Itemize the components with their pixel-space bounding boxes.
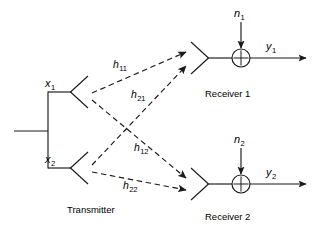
transmitter-caption: Transmitter <box>67 205 115 215</box>
channel-label-h21: h21 <box>131 89 145 100</box>
tx-signal-label-x1: x1 <box>45 78 54 89</box>
receiver-1-caption: Receiver 1 <box>205 89 250 99</box>
rx1-noise-label: n1 <box>234 8 244 19</box>
tx-antenna-1-icon <box>71 76 89 108</box>
rx2-antenna-icon <box>191 168 209 200</box>
receiver-1-group <box>191 22 306 74</box>
rx2-noise-label: n2 <box>234 134 244 145</box>
tx-signal-label-x2: x2 <box>45 154 54 165</box>
channel-path-h22 <box>92 172 186 190</box>
rx2-output-label: y2 <box>266 167 275 178</box>
receiver-2-group <box>191 148 306 200</box>
receiver-2-caption: Receiver 2 <box>205 212 250 222</box>
channel-path-h11 <box>92 52 186 93</box>
channel-label-h12: h12 <box>134 142 148 153</box>
diagram-canvas <box>0 0 318 234</box>
channel-paths-group <box>92 52 186 190</box>
channel-path-h12 <box>92 100 186 178</box>
tx-antenna-2-icon <box>71 152 89 184</box>
mimo-channel-diagram: x1 x2 h11 h21 h12 h22 n1 y1 Receiver 1 n… <box>0 0 318 234</box>
rx1-output-label: y1 <box>266 41 275 52</box>
rx1-antenna-icon <box>191 42 209 74</box>
channel-label-h22: h22 <box>123 180 137 191</box>
channel-label-h11: h11 <box>113 59 126 70</box>
